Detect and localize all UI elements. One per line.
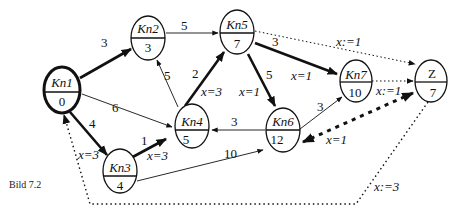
edge-label-kn4-kn5-weight: 2 <box>192 66 199 81</box>
node-kn4-name: Kn4 <box>180 114 203 129</box>
edge-label-kn1-kn2-weight: 3 <box>101 35 108 50</box>
node-kn6-value: 12 <box>271 132 284 147</box>
edge-label-kn1-kn3-flow: x=3 <box>77 147 100 162</box>
node-kn7-value: 10 <box>349 85 362 100</box>
edge-label-z-kn1-flow: x:=3 <box>373 179 400 194</box>
edge-label-kn3-kn4-weight: 1 <box>141 133 148 148</box>
node-kn2: Kn2 3 <box>131 16 165 60</box>
edge-kn5-z <box>255 31 415 64</box>
node-kn2-name: Kn2 <box>136 21 159 36</box>
edge-label-kn7-z-flow: x:=1 <box>375 83 401 98</box>
node-kn6-name: Kn6 <box>271 114 294 129</box>
node-kn7-name: Kn7 <box>344 67 367 82</box>
node-kn4: Kn4 5 <box>175 104 209 148</box>
node-kn5-value: 7 <box>234 36 241 51</box>
node-z-value: 7 <box>430 85 437 100</box>
network-diagram: 3 5 5 2 x=3 6 4 x=3 1 x=3 10 5 x=1 3 x=1… <box>0 0 455 216</box>
edge-label-kn5-kn6-weight: 5 <box>266 67 273 82</box>
edge-label-kn5-kn7-flow: x=1 <box>290 68 312 83</box>
node-kn3-name: Kn3 <box>108 160 131 175</box>
edge-label-kn6-kn4-weight: 3 <box>231 114 238 129</box>
node-kn4-value: 5 <box>183 132 190 147</box>
edge-label-kn4-kn5-flow: x=3 <box>200 84 223 99</box>
node-kn1: Kn1 0 <box>44 67 80 113</box>
node-z-name: Z <box>428 66 436 81</box>
figure-caption: Bild 7.2 <box>9 179 41 190</box>
edge-label-kn5-z-flow: x:=1 <box>335 34 361 49</box>
node-kn1-value: 0 <box>59 94 66 109</box>
edge-label-kn1-kn4-weight: 6 <box>112 100 119 115</box>
node-kn3: Kn3 4 <box>103 149 137 193</box>
node-kn5-name: Kn5 <box>225 17 248 32</box>
edge-label-kn5-kn6-flow: x=1 <box>238 84 260 99</box>
node-kn7: Kn7 10 <box>340 60 372 102</box>
edge-label-kn5-kn7-weight: 3 <box>272 34 279 49</box>
edge-label-z-kn6-flow: x=1 <box>325 132 347 147</box>
edge-label-kn3-kn4-flow: x=3 <box>146 148 169 163</box>
edge-label-kn1-kn3-weight: 4 <box>89 116 96 131</box>
node-kn1-name: Kn1 <box>50 75 73 90</box>
edge-label-kn4-kn2-weight: 5 <box>164 68 171 83</box>
node-kn5: Kn5 7 <box>220 10 254 54</box>
edge-kn1-kn4 <box>82 94 172 127</box>
node-kn2-value: 3 <box>145 40 152 55</box>
edge-label-kn3-kn6-weight: 10 <box>224 146 237 161</box>
edge-label-kn6-kn7-weight: 3 <box>317 99 324 114</box>
node-kn3-value: 4 <box>117 178 124 193</box>
edge-label-kn2-kn5-weight: 5 <box>181 18 188 33</box>
node-z: Z 7 <box>415 60 447 102</box>
node-kn6: Kn6 12 <box>266 108 300 152</box>
edge-kn1-kn2 <box>80 49 131 78</box>
